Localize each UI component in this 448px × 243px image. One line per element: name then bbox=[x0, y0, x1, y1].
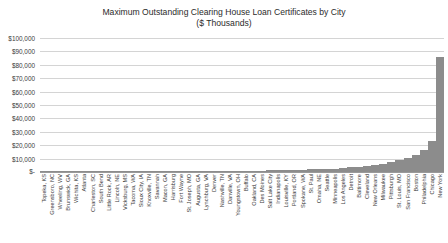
x-axis-tick: Lynchburg, VA bbox=[202, 174, 210, 243]
x-axis-tick: Baltimore bbox=[355, 174, 363, 243]
y-axis-tick-label: $70,000 bbox=[12, 75, 35, 82]
bar bbox=[282, 170, 290, 172]
x-axis-tick: San Francisco bbox=[404, 174, 412, 243]
x-axis-tick-label: Macon, GA bbox=[162, 174, 168, 202]
x-axis-tick-label: Portland, OR bbox=[291, 174, 297, 206]
x-axis-tick-label: Philadelphia bbox=[421, 174, 427, 204]
x-axis-tick-label: Harrisburg bbox=[170, 174, 176, 200]
x-axis-tick: Tacoma, WA bbox=[129, 174, 137, 243]
x-axis-tick: Seattle bbox=[323, 174, 331, 243]
x-axis-tick: Greensboro, NC bbox=[48, 174, 56, 243]
bar bbox=[436, 57, 444, 172]
x-axis-tick-label: Augusta, GA bbox=[195, 174, 201, 206]
x-axis-tick: Fort Wayne bbox=[177, 174, 185, 243]
x-axis-tick-label: Indianapolis bbox=[275, 174, 281, 204]
bar bbox=[48, 171, 56, 172]
x-axis-tick: Oakland, CA bbox=[250, 174, 258, 243]
x-axis-tick: South Bend bbox=[97, 174, 105, 243]
bar bbox=[193, 171, 201, 172]
bar bbox=[234, 171, 242, 172]
x-axis-tick-label: Cleveland bbox=[364, 174, 370, 199]
chart-title: Maximum Outstanding Clearing House Loan … bbox=[0, 7, 448, 29]
x-axis-tick: Knoxville, TN bbox=[145, 174, 153, 243]
bar bbox=[387, 162, 395, 172]
bar bbox=[339, 168, 347, 172]
x-axis-tick: Charleston, SC bbox=[88, 174, 96, 243]
x-axis-tick-label: New York bbox=[437, 174, 443, 198]
x-axis: Topeka, KSGreensboro, NCWheeling, WVBrun… bbox=[40, 174, 444, 243]
bar bbox=[121, 171, 129, 172]
x-axis-tick: Spokane, WA bbox=[299, 174, 307, 243]
x-axis-tick-label: St. Louis, MO bbox=[396, 174, 402, 208]
y-axis-tick-label: $100,000 bbox=[8, 35, 35, 42]
y-axis-tick-label: $90,000 bbox=[12, 48, 35, 55]
bar bbox=[379, 164, 387, 172]
bar-series bbox=[40, 38, 444, 172]
x-axis-tick-label: Tacoma, WA bbox=[130, 174, 136, 206]
x-axis-tick-label: Lynchburg, VA bbox=[203, 174, 209, 210]
y-axis-tick-label: $20,000 bbox=[12, 142, 35, 149]
x-axis-tick-label: Charleston, SC bbox=[90, 174, 96, 212]
x-axis-tick: Detroit bbox=[347, 174, 355, 243]
bar bbox=[242, 171, 250, 172]
y-axis-zero-label: $- bbox=[0, 168, 38, 175]
x-axis-tick: Savannah bbox=[153, 174, 161, 243]
x-axis-tick: Los Angeles bbox=[339, 174, 347, 243]
x-axis-tick: Nashville, TN bbox=[218, 174, 226, 243]
bar bbox=[113, 171, 121, 172]
bar bbox=[355, 167, 363, 172]
x-axis-tick: Chicago bbox=[428, 174, 436, 243]
x-axis-tick: Louisville, KY bbox=[282, 174, 290, 243]
axis-baseline bbox=[40, 172, 444, 173]
bar bbox=[153, 171, 161, 172]
x-axis-tick: Lincoln, NE bbox=[113, 174, 121, 243]
x-axis-tick-label: Nashville, TN bbox=[219, 174, 225, 207]
bar bbox=[88, 171, 96, 172]
bar bbox=[72, 171, 80, 172]
x-axis-tick: Augusta, GA bbox=[193, 174, 201, 243]
x-axis-tick-label: Chicago bbox=[429, 174, 435, 195]
bar bbox=[80, 171, 88, 172]
bar bbox=[404, 158, 412, 172]
plot-area bbox=[40, 38, 444, 172]
x-axis-tick: Pittsburgh bbox=[387, 174, 395, 243]
x-axis-tick: Topeka, KS bbox=[40, 174, 48, 243]
bar bbox=[169, 171, 177, 172]
x-axis-tick-label: Vicksburg, MS bbox=[122, 174, 128, 210]
x-axis-tick-label: Knoxville, TN bbox=[146, 174, 152, 207]
x-axis-tick-label: Savannah bbox=[154, 174, 160, 199]
y-axis-tick-label: $50,000 bbox=[12, 102, 35, 109]
x-axis-tick-label: Salt Lake City bbox=[267, 174, 273, 209]
y-axis: $10,000$20,000$30,000$40,000$50,000$60,0… bbox=[0, 38, 38, 172]
x-axis-tick-label: Denver bbox=[211, 174, 217, 192]
x-axis-tick: Wichita, KS bbox=[72, 174, 80, 243]
x-axis-tick: Philadelphia bbox=[420, 174, 428, 243]
x-axis-tick: St. Paul bbox=[307, 174, 315, 243]
x-axis-tick-label: Milwaukee bbox=[380, 174, 386, 200]
y-axis-tick-label: $10,000 bbox=[12, 155, 35, 162]
bar bbox=[258, 171, 266, 172]
x-axis-tick-label: Sioux City, IA bbox=[138, 174, 144, 207]
bar bbox=[202, 171, 210, 172]
x-axis-tick: Atlanta bbox=[80, 174, 88, 243]
x-axis-tick-label: Boston bbox=[413, 174, 419, 191]
bar bbox=[347, 167, 355, 172]
x-axis-tick: New Orleans bbox=[371, 174, 379, 243]
x-axis-tick: Macon, GA bbox=[161, 174, 169, 243]
x-axis-tick-label: Atlanta bbox=[81, 174, 87, 191]
x-axis-tick-label: Danville, VA bbox=[227, 174, 233, 204]
y-axis-tick-label: $80,000 bbox=[12, 61, 35, 68]
chart-container: Maximum Outstanding Clearing House Loan … bbox=[0, 0, 448, 243]
bar bbox=[129, 171, 137, 172]
bar bbox=[428, 141, 436, 172]
x-axis-tick: Boston bbox=[412, 174, 420, 243]
x-axis-tick-label: Louisville, KY bbox=[283, 174, 289, 208]
x-axis-tick-label: Oakland, CA bbox=[251, 174, 257, 206]
bar bbox=[226, 171, 234, 172]
x-axis-tick: St. Louis, MO bbox=[395, 174, 403, 243]
bar bbox=[210, 171, 218, 172]
bar bbox=[105, 171, 113, 172]
x-axis-tick-label: Fort Wayne bbox=[178, 174, 184, 203]
x-axis-tick-label: Youngstown, OH bbox=[235, 174, 241, 216]
bar bbox=[290, 170, 298, 172]
